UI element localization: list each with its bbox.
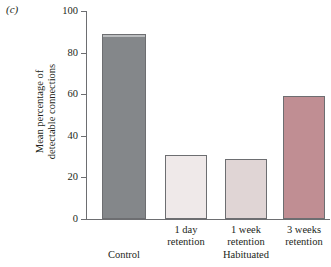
bar-top-highlight	[103, 35, 145, 37]
bar-1-week-retention[interactable]	[225, 159, 267, 219]
x-label-3-weeks-retention: 3 weeks retention	[268, 224, 331, 248]
group-label-control: Control	[88, 249, 160, 260]
figure-panel-c: (c) Mean percentage of detectable connec…	[0, 0, 331, 267]
bar-1-day-retention[interactable]	[165, 155, 207, 219]
x-label-3-weeks-line-2: retention	[268, 236, 331, 248]
bar-3-weeks-retention[interactable]	[283, 96, 325, 219]
x-label-3-weeks-line-1: 3 weeks	[268, 224, 331, 236]
bar-control[interactable]	[102, 34, 146, 219]
group-label-habituated: Habituated	[198, 249, 294, 260]
